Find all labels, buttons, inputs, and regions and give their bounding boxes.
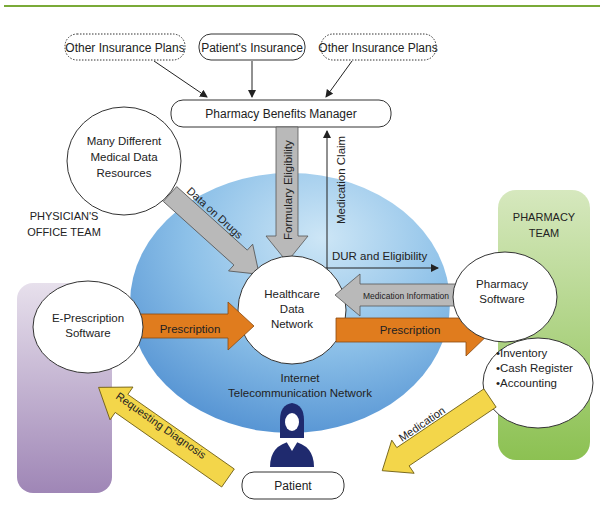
pharmacy-function-cash-register: •Cash Register xyxy=(496,362,573,374)
physician-team-label-1: PHYSICIAN'S xyxy=(30,210,99,222)
pharmacy-team-label-2: TEAM xyxy=(529,227,560,239)
other-insurance-left-label: Other Insurance Plans xyxy=(65,41,184,55)
arrow-right-insurance-to-pbm xyxy=(326,61,352,97)
hub-label-1: Healthcare xyxy=(264,288,320,300)
arrow-left-insurance-to-pbm xyxy=(154,61,207,97)
pharmacy-function-accounting: •Accounting xyxy=(496,377,557,389)
physician-team-label-2: OFFICE TEAM xyxy=(27,226,101,238)
hub-label-2: Data xyxy=(280,303,305,315)
network-caption-2: Telecommunication Network xyxy=(228,387,372,399)
patient-label: Patient xyxy=(274,479,312,493)
pharmacy-software-label-1: Pharmacy xyxy=(476,278,528,290)
pharmacy-function-inventory: •Inventory xyxy=(496,347,548,359)
healthcare-data-network-diagram: Other Insurance Plans Patient's Insuranc… xyxy=(0,0,604,509)
e-prescription-label-2: Software xyxy=(65,327,110,339)
hub-label-3: Network xyxy=(271,318,313,330)
medication-information-label: Medication Information xyxy=(363,291,449,301)
prescription-left-label: Prescription xyxy=(160,323,221,335)
resources-label-2: Medical Data xyxy=(90,151,158,163)
e-prescription-label-1: E-Prescription xyxy=(52,312,124,324)
pharmacy-team-label-1: PHARMACY xyxy=(513,211,576,223)
other-insurance-right-label: Other Insurance Plans xyxy=(318,41,437,55)
resources-label-3: Resources xyxy=(97,167,152,179)
prescription-right-label: Prescription xyxy=(380,324,441,336)
resources-label-1: Many Different xyxy=(87,135,162,147)
medication-claim-label: Medication Claim xyxy=(335,136,347,224)
dur-eligibility-label: DUR and Eligibility xyxy=(332,250,427,262)
pbm-label: Pharmacy Benefits Manager xyxy=(205,107,356,121)
formulary-eligibility-label: Formulary Eligibility xyxy=(282,140,294,240)
pharmacy-software-label-2: Software xyxy=(479,293,524,305)
patients-insurance-label: Patient's Insurance xyxy=(201,41,303,55)
network-caption-1: Internet xyxy=(281,372,321,384)
